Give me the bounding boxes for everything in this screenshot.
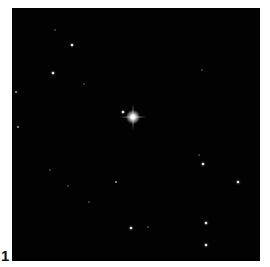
star [201,69,203,71]
star [83,83,85,85]
star [122,111,125,114]
star-field-image [12,8,260,261]
star [49,169,51,171]
star [202,163,205,166]
star [67,185,69,187]
star [88,201,90,203]
star [198,154,200,156]
panel-label: 1 [1,248,9,264]
star [52,72,55,75]
figure: 1 [0,0,270,267]
star [115,181,117,183]
star [15,91,17,93]
star [205,244,208,247]
star [54,29,56,31]
star [130,227,133,230]
star [147,226,149,228]
star [17,126,19,128]
star [205,222,208,225]
star [237,181,240,184]
central-bright-star [126,110,140,124]
star [71,44,74,47]
